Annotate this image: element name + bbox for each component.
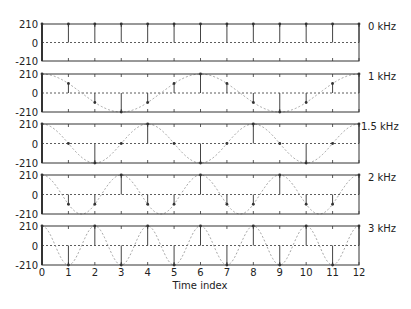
sample-marker	[226, 142, 229, 145]
x-axis-label: Time index	[171, 280, 227, 291]
series-label: 3 kHz	[368, 223, 396, 234]
sample-marker	[252, 101, 255, 104]
x-tick-label: 8	[250, 267, 256, 278]
stem-plot-figure: 2100-2100 kHz2100-2101 kHz2100-2101.5 kH…	[0, 0, 411, 309]
x-tick-label: 6	[197, 267, 203, 278]
sample-marker	[331, 82, 334, 85]
series-label: 2 kHz	[368, 172, 396, 183]
x-tick-label: 5	[171, 267, 177, 278]
panel-1-khz: 2100-2101 kHz	[15, 69, 396, 118]
sample-marker	[278, 142, 281, 145]
sample-marker	[173, 142, 176, 145]
y-tick-label: -210	[15, 260, 38, 271]
sample-marker	[305, 101, 308, 104]
sample-marker	[67, 142, 70, 145]
sample-marker	[252, 203, 255, 206]
y-tick-label: 210	[19, 69, 38, 80]
sample-marker	[146, 203, 149, 206]
y-tick-label: -210	[15, 107, 38, 118]
panel-3-khz: 2100-2103 kHz	[15, 221, 396, 271]
x-tick-label: 7	[224, 267, 230, 278]
sample-marker	[173, 82, 176, 85]
x-tick-label: 12	[353, 267, 366, 278]
y-tick-label: -210	[15, 56, 38, 67]
y-tick-label: 210	[19, 19, 38, 30]
x-tick-label: 9	[277, 267, 283, 278]
series-label: 1 kHz	[368, 71, 396, 82]
panel-2-khz: 2100-2102 kHz	[15, 170, 396, 220]
sample-marker	[226, 203, 229, 206]
panel-1-5-khz: 2100-2101.5 kHz	[15, 119, 398, 169]
sample-marker	[146, 101, 149, 104]
sample-marker	[331, 142, 334, 145]
plot-canvas: 2100-2100 kHz2100-2101 kHz2100-2101.5 kH…	[0, 0, 411, 309]
sample-marker	[93, 101, 96, 104]
x-tick-label: 11	[326, 267, 339, 278]
x-tick-label: 10	[300, 267, 313, 278]
y-tick-label: 210	[19, 170, 38, 181]
sample-marker	[173, 203, 176, 206]
y-tick-label: 0	[32, 38, 38, 49]
y-tick-label: 0	[32, 241, 38, 252]
x-tick-label: 4	[144, 267, 150, 278]
series-label: 1.5 kHz	[361, 121, 399, 132]
sample-marker	[331, 203, 334, 206]
panel-0-khz: 2100-2100 kHz	[15, 19, 396, 67]
sample-marker	[67, 82, 70, 85]
y-tick-label: 210	[19, 221, 38, 232]
sample-marker	[226, 82, 229, 85]
x-tick-label: 3	[118, 267, 124, 278]
y-tick-label: 0	[32, 88, 38, 99]
x-tick-label: 2	[92, 267, 98, 278]
y-tick-label: -210	[15, 209, 38, 220]
y-tick-label: 0	[32, 190, 38, 201]
sample-marker	[67, 203, 70, 206]
y-tick-label: -210	[15, 158, 38, 169]
sample-marker	[305, 203, 308, 206]
series-label: 0 kHz	[368, 21, 396, 32]
y-tick-label: 0	[32, 139, 38, 150]
x-tick-label: 0	[39, 267, 45, 278]
y-tick-label: 210	[19, 119, 38, 130]
sample-marker	[120, 142, 123, 145]
x-tick-label: 1	[65, 267, 71, 278]
sample-marker	[93, 203, 96, 206]
